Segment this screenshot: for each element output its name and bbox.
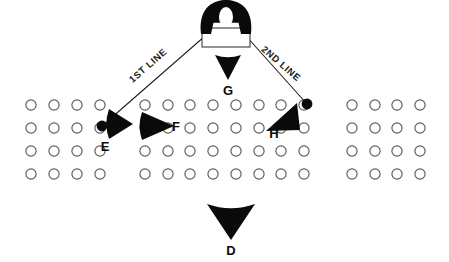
formation-circle xyxy=(49,146,59,156)
unit-label-g: G xyxy=(223,83,233,98)
formation-circle xyxy=(49,100,59,110)
diagram-labels: GDEFH1ST LINE2ND LINE xyxy=(101,43,303,258)
formation-circle xyxy=(95,169,105,179)
formation-circle xyxy=(26,146,36,156)
formation-circle xyxy=(185,169,195,179)
formation-circle xyxy=(163,146,173,156)
unit-label-f: F xyxy=(172,119,180,134)
formation-circle xyxy=(254,123,264,133)
formation-circle xyxy=(26,123,36,133)
formation-circle xyxy=(299,146,309,156)
formation-circle xyxy=(254,100,264,110)
formation-circle xyxy=(231,123,241,133)
unit-cone-d xyxy=(207,204,255,240)
group-center xyxy=(140,100,309,179)
tactical-diagram: GDEFH1ST LINE2ND LINE xyxy=(0,0,449,262)
unit-label-h: H xyxy=(269,126,278,141)
route-label-line-1: 1ST LINE xyxy=(127,46,169,85)
formation-circle xyxy=(347,146,357,156)
formation-circle xyxy=(140,169,150,179)
formation-circle xyxy=(185,100,195,110)
formation-circle xyxy=(370,169,380,179)
objective-blob-hole xyxy=(219,7,233,27)
formation-circle xyxy=(370,100,380,110)
formation-circle xyxy=(347,100,357,110)
formation-circle xyxy=(95,100,105,110)
formation-circle xyxy=(72,100,82,110)
formation-circle xyxy=(26,100,36,110)
formation-circle xyxy=(347,169,357,179)
formation-circle xyxy=(392,123,402,133)
formation-circle xyxy=(276,146,286,156)
formation-circle xyxy=(72,146,82,156)
route-1st-line xyxy=(102,36,205,126)
unit-cone-e xyxy=(106,109,133,139)
unit-label-e: E xyxy=(101,139,110,154)
formation-circle xyxy=(415,100,425,110)
formation-circle xyxy=(415,169,425,179)
unit-cone-f xyxy=(140,112,174,140)
group-left xyxy=(26,100,105,179)
formation-circle xyxy=(415,146,425,156)
formation-circle xyxy=(231,169,241,179)
formation-circle xyxy=(208,100,218,110)
objective-marker xyxy=(201,0,252,47)
formation-circle xyxy=(231,146,241,156)
formation-circle xyxy=(254,169,264,179)
formation-circle xyxy=(208,169,218,179)
formation-circle xyxy=(140,100,150,110)
unit-cone-g xyxy=(215,55,241,80)
formation-circle xyxy=(254,146,264,156)
formation-circle xyxy=(392,169,402,179)
formation-circle xyxy=(370,146,380,156)
formation-circle xyxy=(231,100,241,110)
unit-label-d: D xyxy=(226,243,235,258)
formation-circle xyxy=(26,169,36,179)
group-right xyxy=(347,100,425,179)
dot-e xyxy=(97,121,108,132)
formation-circle xyxy=(392,146,402,156)
formation-circle xyxy=(370,123,380,133)
formation-circle xyxy=(72,123,82,133)
formation-circle xyxy=(140,146,150,156)
formation-circle xyxy=(392,100,402,110)
formation-circle xyxy=(299,123,309,133)
formation-circle xyxy=(49,169,59,179)
formation-circle xyxy=(72,169,82,179)
formation-circle xyxy=(276,169,286,179)
formation-circle xyxy=(163,169,173,179)
diagram-canvas: GDEFH1ST LINE2ND LINE xyxy=(0,0,449,262)
formation-circle xyxy=(208,146,218,156)
formation-circle xyxy=(299,169,309,179)
formation-grid xyxy=(26,100,425,179)
dot-h xyxy=(302,99,313,110)
formation-circle xyxy=(185,123,195,133)
formation-circle xyxy=(185,146,195,156)
formation-circle xyxy=(415,123,425,133)
formation-circle xyxy=(208,123,218,133)
route-label-line-2: 2ND LINE xyxy=(260,43,304,83)
formation-circle xyxy=(276,100,286,110)
formation-circle xyxy=(163,100,173,110)
formation-circle xyxy=(347,123,357,133)
formation-circle xyxy=(49,123,59,133)
